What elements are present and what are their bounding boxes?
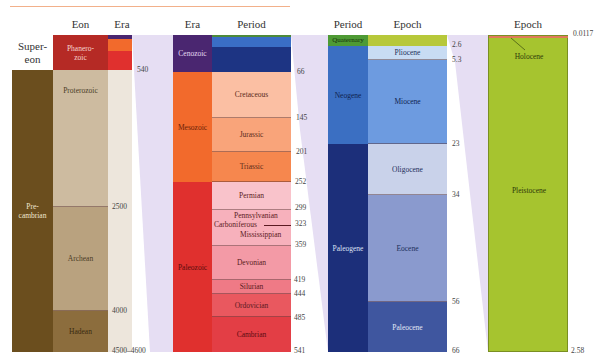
tick-485: 485 — [294, 313, 305, 322]
tick-4500-4600: 4500–4600 — [112, 346, 146, 355]
period-cambrian: Cambrian — [212, 317, 291, 352]
hadean-block: Hadean — [53, 311, 108, 352]
supereon-label-line1: Super- — [12, 40, 53, 53]
tick-252: 252 — [295, 177, 306, 186]
precambrian-block: Pre- cambrian — [12, 70, 53, 352]
tick-323: 323 — [295, 219, 306, 228]
period-devonian: Devonian — [212, 246, 291, 280]
period-triassic: Triassic — [212, 152, 291, 182]
epoch-eocene: Eocene — [368, 195, 447, 302]
tick-444: 444 — [294, 289, 305, 298]
epoch-miocene: Miocene — [368, 60, 447, 144]
epoch-paleocene: Paleocene — [368, 302, 447, 352]
period-silurian: Silurian — [212, 280, 291, 294]
tick-66: 66 — [297, 67, 305, 76]
holocene-leader-line — [489, 36, 569, 66]
tick-201: 201 — [296, 147, 307, 156]
supereon-label: Super- eon — [12, 40, 53, 66]
pleistocene-block: Holocene Pleistocene — [488, 35, 568, 352]
phanerozoic-block: Phanero- zoic — [53, 35, 108, 70]
tick-540: 540 — [137, 65, 148, 74]
period-carboniferous: Pennsylvanian Carboniferous Mississippia… — [212, 210, 291, 246]
header-era-2: Era — [173, 18, 212, 30]
tick-299: 299 — [295, 203, 306, 212]
cenozoic-block: Cenozoic — [173, 35, 212, 72]
tick-0.0117: 0.0117 — [573, 29, 593, 38]
tick-145: 145 — [296, 113, 307, 122]
era-strip-mesozoic — [108, 39, 132, 51]
tick-4000: 4000 — [112, 306, 127, 315]
epoch-pleistocene: Pleistocene — [489, 186, 569, 195]
epoch-oligocene: Oligocene — [368, 144, 447, 195]
neogene-block: Neogene — [328, 46, 368, 144]
header-period: Period — [212, 18, 291, 30]
proterozoic-block: Proterozoic — [53, 70, 108, 207]
header-eon: Eon — [53, 18, 108, 30]
archean-block: Archean — [53, 207, 108, 311]
period-paleogene-strip — [212, 47, 291, 72]
tick-419: 419 — [294, 275, 305, 284]
carboniferous-divider — [264, 225, 291, 226]
paleogene-block: Paleogene — [328, 144, 368, 352]
period-pennsylvanian: Pennsylvanian — [234, 211, 278, 220]
period-neogene-strip — [212, 37, 291, 47]
tick-34: 34 — [452, 190, 460, 199]
tick-2.58: 2.58 — [571, 346, 584, 355]
tick-56: 56 — [452, 297, 460, 306]
accent-divider — [10, 6, 290, 7]
header-epoch-2: Epoch — [488, 18, 568, 30]
header-epoch: Epoch — [368, 18, 447, 30]
period-jurassic: Jurassic — [212, 118, 291, 152]
paleozoic-block: Paleozoic — [173, 182, 212, 352]
tick-359: 359 — [295, 240, 306, 249]
tick-541: 541 — [294, 346, 305, 355]
tick-66-epoch: 66 — [452, 346, 460, 355]
mesozoic-block: Mesozoic — [173, 72, 212, 182]
tick-2.6: 2.6 — [452, 40, 461, 49]
header-period-2: Period — [328, 18, 368, 30]
period-carboniferous-label: Carboniferous — [214, 220, 257, 229]
period-cretaceous: Cretaceous — [212, 72, 291, 118]
tick-23: 23 — [452, 139, 460, 148]
period-permian: Permian — [212, 182, 291, 210]
tick-2500: 2500 — [112, 202, 127, 211]
quaternary-block: Quaternary — [328, 35, 368, 46]
epoch-holocene: Holocene — [489, 52, 569, 61]
era-strip-paleozoic — [108, 51, 132, 70]
tick-5.3: 5.3 — [452, 55, 461, 64]
epoch-pliocene: Pliocene — [368, 46, 447, 60]
epoch-quaternary-strip — [368, 35, 447, 46]
supereon-label-line2: eon — [12, 53, 53, 66]
period-mississippian: Mississippian — [240, 230, 281, 239]
period-ordovician: Ordovician — [212, 294, 291, 317]
header-era: Era — [108, 18, 136, 30]
